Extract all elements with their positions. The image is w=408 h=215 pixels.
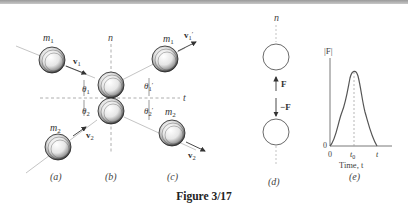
v2-arrow bbox=[73, 127, 86, 136]
v2-prime-label: v2 bbox=[188, 150, 196, 161]
panel-e-label: (e) bbox=[349, 171, 361, 183]
t-tick-label: t bbox=[376, 150, 379, 159]
normal-axis-label: n bbox=[108, 32, 113, 43]
tangent-axis-label: t bbox=[183, 92, 186, 103]
m1-label-a: m1 bbox=[43, 32, 54, 45]
figure-caption: Figure 3/17 bbox=[0, 190, 408, 202]
panel-d-label: (d) bbox=[268, 176, 280, 188]
panel-d: n F −F (d) bbox=[263, 12, 291, 188]
x-origin-label: 0 bbox=[328, 150, 332, 159]
panel-e: |F| 0 0 t0 t Time, t (e) bbox=[323, 46, 392, 183]
ball-m1-contact bbox=[98, 72, 124, 98]
d-normal-axis-label: n bbox=[274, 12, 279, 23]
theta1-label: θ1 bbox=[82, 84, 90, 95]
panel-a-label: (a) bbox=[50, 171, 62, 183]
v2-label: v2 bbox=[86, 130, 94, 141]
force-pulse-curve bbox=[330, 71, 377, 146]
d-ball-lower bbox=[263, 119, 289, 145]
panel-abc: n t m1 v1 m2 v2 bbox=[16, 30, 205, 183]
m2-label-a: m2 bbox=[50, 122, 61, 135]
v1-prime-label: v1′ bbox=[184, 30, 194, 41]
impact-diagram: n t m1 v1 m2 v2 bbox=[0, 0, 408, 215]
panel-b-label: (b) bbox=[105, 171, 117, 183]
force-down-label: −F bbox=[280, 102, 291, 112]
ball-m1-after bbox=[152, 46, 178, 72]
t0-tick-label: t0 bbox=[350, 150, 355, 160]
m2-label-c: m2 bbox=[165, 106, 176, 119]
v1-arrow bbox=[66, 66, 86, 74]
panel-c-label: (c) bbox=[167, 171, 179, 183]
force-up-label: F bbox=[281, 79, 287, 89]
ball-m2-before bbox=[45, 134, 71, 160]
v1-prime-arrow bbox=[178, 42, 196, 51]
x-axis-title: Time, t bbox=[339, 160, 364, 170]
v1-label: v1 bbox=[73, 56, 81, 67]
y-axis-label: |F| bbox=[324, 46, 333, 56]
m1-label-c: m1 bbox=[163, 33, 174, 46]
theta2-label: θ2 bbox=[82, 106, 90, 117]
ball-m2-after bbox=[159, 120, 185, 146]
ball-m2-contact bbox=[98, 98, 124, 124]
y-origin-label: 0 bbox=[323, 141, 327, 150]
ball-m1-before bbox=[39, 47, 65, 73]
d-ball-upper bbox=[263, 44, 289, 70]
